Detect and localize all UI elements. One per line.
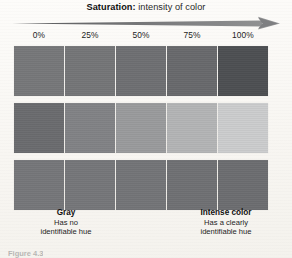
figure-number-caption: Figure 4.3	[8, 249, 43, 258]
color-swatch	[116, 160, 166, 210]
caption-intense-color-line2: identifiable hue	[160, 227, 292, 236]
scale-label-100: 100%	[218, 30, 268, 41]
figure-page: Saturation: intensity of color 0% 25% 50…	[0, 0, 292, 258]
caption-intense-color-title: Intense color	[160, 208, 292, 218]
scale-label-50: 50%	[116, 30, 166, 41]
color-swatch	[218, 160, 268, 210]
color-swatch	[218, 46, 268, 96]
swatch-row	[14, 160, 268, 210]
color-swatch	[65, 160, 115, 210]
caption-gray: Gray Has no identifiable hue	[0, 208, 132, 237]
color-swatch	[14, 160, 64, 210]
color-swatch	[167, 103, 217, 153]
color-swatch	[65, 46, 115, 96]
scale-label-0: 0%	[14, 30, 64, 41]
color-swatch	[116, 103, 166, 153]
caption-intense-color: Intense color Has a clearly identifiable…	[160, 208, 292, 237]
caption-gray-line2: identifiable hue	[0, 227, 132, 236]
color-swatch	[65, 103, 115, 153]
caption-intense-color-line1: Has a clearly	[160, 218, 292, 227]
saturation-scale-labels: 0% 25% 50% 75% 100%	[14, 30, 268, 41]
scale-label-75: 75%	[167, 30, 217, 41]
color-swatch	[167, 46, 217, 96]
figure-title: Saturation: intensity of color	[0, 2, 292, 13]
saturation-swatch-grid	[14, 46, 268, 210]
color-swatch	[167, 160, 217, 210]
color-swatch	[116, 46, 166, 96]
figure-title-strong: Saturation:	[87, 2, 136, 12]
color-swatch	[14, 103, 64, 153]
scale-label-25: 25%	[65, 30, 115, 41]
swatch-row	[14, 46, 268, 96]
color-swatch	[218, 103, 268, 153]
caption-gray-line1: Has no	[0, 218, 132, 227]
right-arrow-icon	[12, 16, 280, 30]
color-swatch	[14, 46, 64, 96]
swatch-row	[14, 103, 268, 153]
caption-gray-title: Gray	[0, 208, 132, 218]
figure-title-rest: intensity of color	[136, 2, 206, 12]
